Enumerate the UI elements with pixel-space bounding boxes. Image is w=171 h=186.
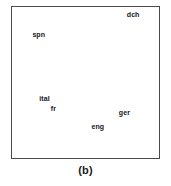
- scatter-plot-frame: dchspnitalfrgereng: [11, 6, 160, 159]
- scatter-point-label: dch: [127, 11, 140, 19]
- scatter-point-label: ital: [39, 95, 50, 103]
- scatter-point-label: fr: [51, 105, 56, 113]
- figure-caption: (b): [0, 163, 171, 177]
- scatter-point-label: eng: [91, 123, 104, 131]
- figure-panel: dchspnitalfrgereng (b): [0, 0, 171, 186]
- scatter-point-label: spn: [32, 31, 45, 39]
- scatter-point-label: ger: [119, 109, 130, 117]
